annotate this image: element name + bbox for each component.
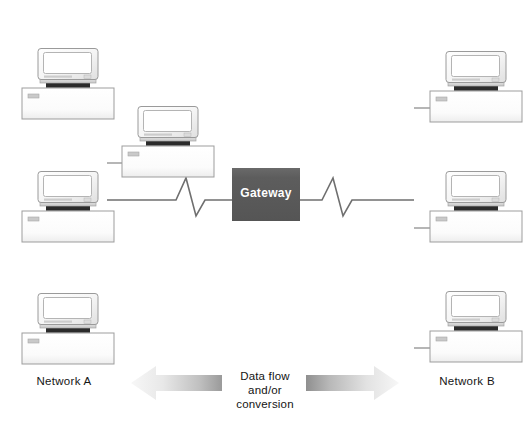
workstation-a1[interactable] [22,49,114,120]
network-gateway-diagram: Gateway [0,0,523,436]
zigzag-link-right [300,178,414,216]
flow-label-line1: Data flow [240,370,290,382]
gateway-node[interactable]: Gateway [232,168,300,221]
workstation-b2[interactable] [430,172,522,243]
arrow-right [306,366,399,400]
gateway-label: Gateway [240,186,291,200]
flow-label-line3: conversion [236,398,294,410]
workstation-b1[interactable] [430,52,522,123]
network-b-nodes [430,52,522,363]
workstation-a3[interactable] [22,294,114,365]
data-flow-label: Data flow and/or conversion [236,370,294,410]
flow-label-line2: and/or [248,384,282,396]
diagram-canvas: Gateway [0,0,523,436]
arrow-left [131,366,222,400]
network-a-nodes [22,49,214,365]
workstation-a2[interactable] [22,172,114,243]
network-a-label: Network A [36,375,91,387]
zigzag-link-left [107,178,232,216]
network-b-label: Network B [439,375,495,387]
workstation-b3[interactable] [430,292,522,363]
drop-lines [78,105,430,350]
workstation-a-server[interactable] [122,107,214,178]
